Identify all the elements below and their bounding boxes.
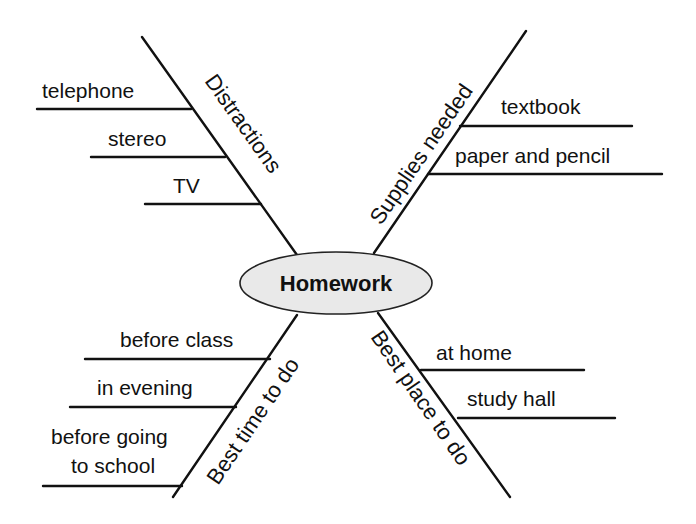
detail-before-going-to-school-line2: to school [71, 454, 155, 477]
center-label: Homework [280, 271, 393, 296]
detail-before-going-to-school-line1: before going [51, 425, 168, 448]
detail-textbook: textbook [501, 95, 581, 118]
detail-study-hall: study hall [467, 387, 556, 410]
center-node: Homework [240, 252, 432, 314]
detail-telephone: telephone [42, 79, 134, 102]
branch-distractions: Distractions telephone stereo TV [37, 37, 297, 255]
spoke-line-supplies-needed [374, 31, 526, 253]
branch-best-time-to-do: Best time to do before class in evening … [43, 315, 304, 497]
detail-tv: TV [173, 174, 200, 197]
detail-stereo: stereo [108, 127, 166, 150]
detail-paper-and-pencil: paper and pencil [455, 144, 610, 167]
spoke-label-distractions: Distractions [200, 69, 287, 177]
spider-map-diagram: Distractions telephone stereo TV Supplie… [0, 0, 696, 524]
detail-before-class: before class [120, 328, 233, 351]
detail-at-home: at home [436, 341, 512, 364]
branch-supplies-needed: Supplies needed textbook paper and penci… [364, 31, 662, 253]
spoke-label-best-time-to-do: Best time to do [201, 353, 304, 489]
branch-best-place-to-do: Best place to do at home study hall [366, 313, 615, 497]
detail-in-evening: in evening [97, 376, 193, 399]
